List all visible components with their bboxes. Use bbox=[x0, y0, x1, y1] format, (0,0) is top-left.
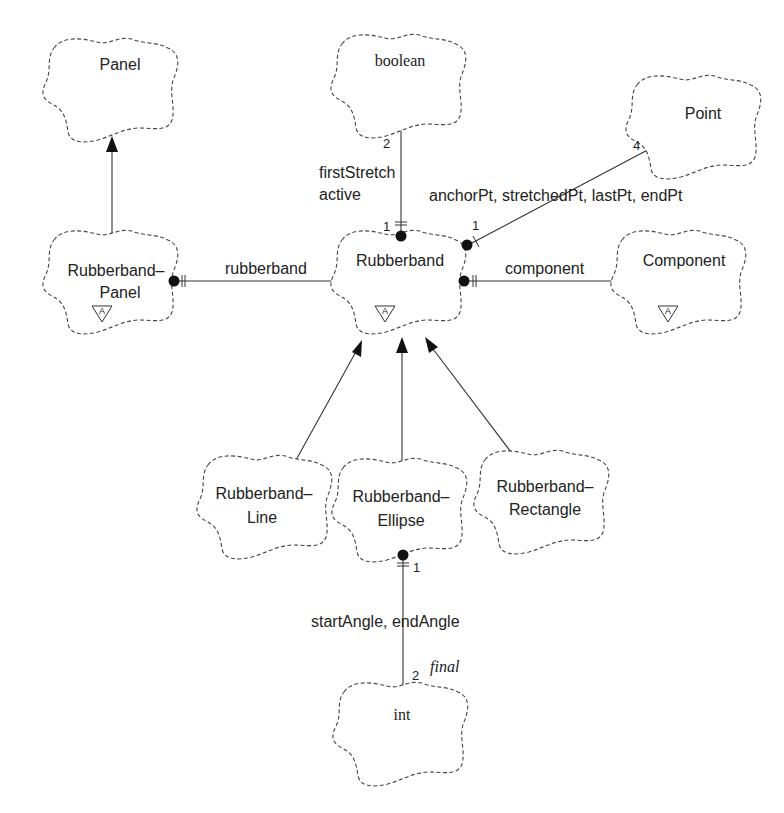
class-name-rubberband-ellipse-line2: Ellipse bbox=[377, 512, 424, 529]
class-rubberband-panel[interactable]: Rubberband– Panel A bbox=[43, 230, 178, 334]
class-name-rubberband-rectangle-line2: Rectangle bbox=[509, 501, 581, 518]
class-diagram: Panel boolean Point Rubberband– Panel A … bbox=[0, 0, 784, 813]
inheritance-line-line bbox=[296, 348, 358, 460]
class-name-rubberband-line-line2: Line bbox=[247, 509, 277, 526]
class-name-point: Point bbox=[685, 105, 722, 122]
class-name-rubberband: Rubberband bbox=[356, 252, 444, 269]
class-rubberband-rectangle[interactable]: Rubberband– Rectangle bbox=[474, 450, 609, 554]
multiplicity-boolean-source: 1 bbox=[383, 219, 390, 234]
class-name-boolean: boolean bbox=[375, 52, 426, 69]
class-boolean[interactable]: boolean bbox=[331, 34, 466, 138]
class-name-rubberband-panel-line1: Rubberband– bbox=[68, 262, 165, 279]
inheritance-arrowhead-line bbox=[352, 340, 362, 357]
has-dot-component bbox=[459, 276, 470, 287]
class-panel[interactable]: Panel bbox=[43, 38, 178, 142]
class-name-rubberband-ellipse-line1: Rubberband– bbox=[353, 488, 450, 505]
class-name-panel: Panel bbox=[100, 56, 141, 73]
role-label-angles: startAngle, endAngle bbox=[311, 613, 460, 630]
inheritance-arrowhead-ellipse bbox=[396, 337, 408, 353]
class-rubberband-ellipse[interactable]: Rubberband– Ellipse bbox=[332, 458, 467, 562]
svg-text:A: A bbox=[99, 306, 105, 316]
class-name-int: int bbox=[394, 706, 411, 723]
multiplicity-angle-target: 2 bbox=[412, 668, 419, 683]
role-label-points: anchorPt, stretchedPt, lastPt, endPt bbox=[429, 187, 683, 204]
svg-text:A: A bbox=[382, 306, 388, 316]
role-label-rubberband: rubberband bbox=[225, 260, 307, 277]
inheritance-arrowhead-rectangle bbox=[425, 337, 438, 353]
role-label-component: component bbox=[505, 260, 585, 277]
has-dot-rubberband bbox=[169, 276, 180, 287]
multiplicity-boolean-target: 2 bbox=[383, 136, 390, 151]
multiplicity-angle-source: 1 bbox=[413, 560, 420, 575]
has-dot-point bbox=[462, 240, 473, 251]
has-dot-angle bbox=[398, 550, 409, 561]
inheritance-arrowhead-panel bbox=[106, 136, 118, 152]
inheritance-line-rectangle bbox=[430, 345, 514, 456]
class-int[interactable]: int bbox=[333, 682, 468, 786]
multiplicity-point-target: 4 bbox=[633, 138, 640, 153]
class-rubberband[interactable]: Rubberband A bbox=[331, 230, 466, 334]
class-name-rubberband-rectangle-line1: Rubberband– bbox=[497, 478, 594, 495]
svg-text:A: A bbox=[665, 306, 671, 316]
class-name-rubberband-line-line1: Rubberband– bbox=[216, 485, 313, 502]
class-name-component: Component bbox=[643, 252, 726, 269]
qualifier-final: final bbox=[430, 658, 460, 676]
has-dot-boolean bbox=[396, 231, 407, 242]
role-label-active: active bbox=[319, 186, 361, 203]
class-rubberband-line[interactable]: Rubberband– Line bbox=[197, 455, 332, 559]
class-point[interactable]: Point bbox=[626, 75, 761, 179]
class-component[interactable]: Component A bbox=[611, 230, 746, 334]
class-name-rubberband-panel-line2: Panel bbox=[100, 284, 141, 301]
multiplicity-point-source: 1 bbox=[472, 218, 479, 233]
role-label-firstStretch: firstStretch bbox=[319, 164, 395, 181]
